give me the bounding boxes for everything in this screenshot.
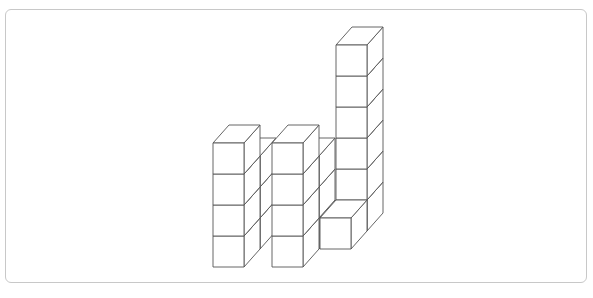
cube-front-face	[336, 45, 367, 76]
cube-front-face	[272, 205, 303, 236]
cube-front-face	[272, 174, 303, 205]
cube-front-face	[272, 236, 303, 267]
cube-front-face	[213, 174, 244, 205]
cube-front-face	[213, 236, 244, 267]
cube-front-face	[336, 76, 367, 107]
cube-front-face	[213, 143, 244, 174]
cube-front-face	[320, 218, 351, 249]
cube-front-face	[336, 138, 367, 169]
cube-stack-diagram	[0, 0, 593, 298]
cube-front-face	[272, 143, 303, 174]
cube-front-face	[213, 205, 244, 236]
cube-front-face	[336, 169, 367, 200]
cube-front-face	[336, 107, 367, 138]
